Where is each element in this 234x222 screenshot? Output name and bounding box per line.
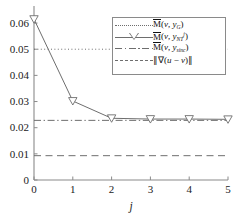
- legend-marker-icon: [130, 33, 138, 39]
- x-tick-label: 3: [148, 183, 154, 195]
- data-point-marker: [69, 98, 77, 105]
- chart-legend: M(v, yG)M(v, yNTj)M(v, ysinc)∥∇(u − v)∥: [112, 17, 226, 75]
- legend-line-sample: [115, 32, 153, 43]
- y-tick-label: 0.05: [10, 43, 30, 55]
- y-tick-label: 0.02: [10, 121, 29, 133]
- legend-line-sample: [115, 43, 153, 54]
- legend-line-sample: [115, 20, 153, 31]
- legend-item: ∥∇(u − v)∥: [115, 55, 222, 67]
- x-tick-label: 5: [225, 183, 231, 195]
- y-tick-label: 0: [24, 174, 30, 186]
- figure-container: 00.010.020.030.040.050.06012345 j M(v, y…: [0, 0, 234, 222]
- data-point-marker: [30, 16, 38, 23]
- x-tick-label: 2: [109, 183, 115, 195]
- legend-item: M(v, ysinc): [115, 43, 222, 55]
- legend-item-label: ∥∇(u − v)∥: [153, 55, 193, 66]
- y-tick-label: 0.03: [10, 95, 30, 107]
- y-tick-label: 0.01: [10, 148, 29, 160]
- y-tick-label: 0.04: [10, 69, 30, 81]
- x-axis-title: j: [127, 200, 132, 213]
- y-tick-label: 0.06: [10, 17, 30, 29]
- legend-item-label: M(v, ysinc): [153, 42, 189, 56]
- legend-line-sample: [115, 55, 153, 66]
- x-tick-label: 4: [186, 183, 192, 195]
- x-tick-label: 0: [31, 183, 37, 195]
- x-tick-label: 1: [70, 183, 76, 195]
